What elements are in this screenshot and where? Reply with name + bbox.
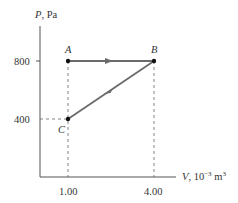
x-tick-label-4: 4.00	[144, 186, 162, 197]
pv-diagram: P, Pa 800 400 1.00 4.00 A B C V, 10−3 m3	[0, 0, 238, 203]
point-label-b: B	[151, 44, 158, 55]
x-axis-label: V, 10−3 m3	[182, 170, 226, 182]
y-tick-label-400: 400	[14, 114, 30, 125]
point-c	[66, 117, 70, 121]
x-tick-label-1: 1.00	[59, 186, 77, 197]
y-tick-label-800: 800	[14, 56, 30, 67]
point-label-c: C	[58, 124, 66, 135]
point-a	[66, 59, 70, 63]
arrow-icon	[105, 58, 113, 64]
point-label-a: A	[64, 44, 72, 55]
y-axis-label: P, Pa	[34, 9, 58, 20]
point-b	[152, 59, 156, 63]
